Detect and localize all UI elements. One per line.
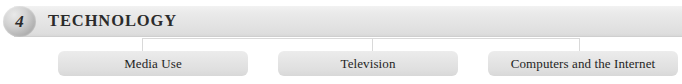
topic-label: Media Use (124, 56, 182, 72)
topic-list: Media Use Television Computers and the I… (0, 51, 682, 76)
section-header-banner: 4 TECHNOLOGY Media Use Television Comput… (0, 0, 682, 84)
page-title: TECHNOLOGY (48, 11, 177, 31)
topic-item-media-use[interactable]: Media Use (58, 51, 248, 76)
chapter-number-badge: 4 (3, 6, 36, 37)
connector-drop-television (372, 38, 373, 51)
topic-item-computers-internet[interactable]: Computers and the Internet (488, 51, 678, 76)
chapter-number-label: 4 (15, 13, 24, 31)
topic-label: Television (341, 56, 396, 72)
topic-item-television[interactable]: Television (278, 51, 458, 76)
connector-horizontal-rail (142, 38, 579, 39)
connector-drop-computers-internet (579, 38, 580, 51)
topic-label: Computers and the Internet (511, 56, 655, 72)
connector-drop-media-use (142, 38, 143, 51)
